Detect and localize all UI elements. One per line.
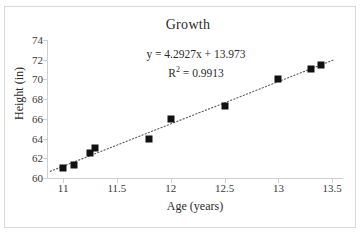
x-axis-tick-labels: 1111.51212.51313.5 [0,182,362,198]
x-axis-tick-label: 13 [273,182,284,194]
data-point-marker [60,165,67,172]
y-axis-title: Height (in) [12,39,27,149]
data-point-marker [275,76,282,83]
chart-container: Growth 6062646668707274 1111.51212.51313… [0,0,362,235]
x-axis-tick-mark [63,179,64,183]
data-point-marker [221,103,228,110]
y-axis-tick-mark [43,119,47,120]
y-axis-tick-mark [43,99,47,100]
x-axis-tick-label: 11 [58,182,69,194]
x-axis-tick-mark [225,179,226,183]
data-point-marker [307,65,314,72]
x-axis-title: Age (years) [47,199,343,214]
x-axis-tick-label: 13.5 [323,182,342,194]
data-point-marker [70,162,77,169]
r-squared-value: = 0.9913 [180,67,224,79]
x-axis-tick-mark [117,179,118,183]
y-axis-tick-mark [43,40,47,41]
trendline-equation-annotation: y = 4.2927x + 13.973 R2 = 0.9913 [110,47,282,81]
r-squared-symbol: R [168,67,176,79]
r-squared-text: R2 = 0.9913 [110,62,282,81]
data-point-marker [167,115,174,122]
y-axis-tick-mark [43,60,47,61]
y-axis-tick-mark [43,139,47,140]
chart-title-text: Growth [152,17,211,32]
y-axis-line [47,40,48,179]
data-point-marker [92,145,99,152]
y-axis-tick-mark [43,178,47,179]
x-axis-tick-mark [171,179,172,183]
regression-equation-text: y = 4.2927x + 13.973 [110,47,282,62]
chart-title: Growth [0,17,362,33]
y-axis-tick-mark [43,158,47,159]
x-axis-tick-mark [278,179,279,183]
x-axis-tick-label: 12.5 [215,182,234,194]
x-axis-tick-mark [332,179,333,183]
data-point-marker [318,61,325,68]
x-axis-line [47,178,343,179]
x-axis-tick-label: 11.5 [108,182,127,194]
data-point-marker [146,135,153,142]
y-axis-tick-label: 62 [19,152,43,164]
y-axis-tick-mark [43,79,47,80]
x-axis-tick-label: 12 [165,182,176,194]
